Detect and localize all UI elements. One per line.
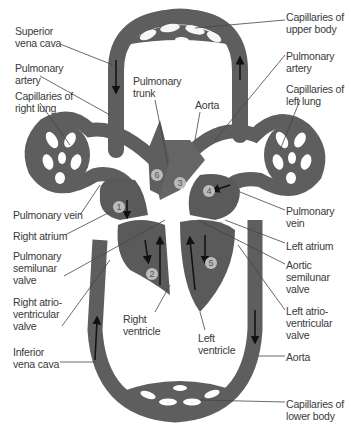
label-right-ventricle: Right ventricle: [123, 313, 160, 337]
label-aorta-lower: Aorta: [286, 351, 310, 363]
label-right-atrium: Right atrium: [13, 230, 67, 242]
svg-text:1: 1: [116, 202, 121, 212]
label-pulmonary-vein-right: Pulmonary vein: [13, 209, 83, 221]
label-right-av-valve: Right atrio- ventricular valve: [13, 296, 62, 332]
svg-text:5: 5: [208, 258, 213, 268]
label-pulmonary-trunk: Pulmonary trunk: [133, 75, 181, 99]
label-inferior-vena-cava: Inferior vena cava: [13, 346, 59, 370]
right-lung-capillaries: [32, 119, 160, 195]
label-left-ventricle: Left ventricle: [198, 332, 235, 356]
label-capillaries-lower-body: Capillaries of lower body: [286, 398, 344, 422]
svg-text:6: 6: [154, 170, 159, 180]
label-left-atrium: Left atrium: [286, 240, 333, 252]
label-pulmonary-vein-left: Pulmonary vein: [286, 205, 334, 229]
label-pulmonary-artery-right: Pulmonary artery: [15, 62, 63, 86]
svg-text:2: 2: [149, 269, 154, 279]
label-aortic-semilunar-valve: Aortic semilunar valve: [286, 259, 330, 295]
label-pulmonary-semilunar-valve: Pulmonary semilunar valve: [13, 250, 61, 286]
svg-text:3: 3: [177, 178, 182, 188]
label-superior-vena-cava: Superior vena cava: [15, 25, 61, 49]
label-capillaries-left-lung: Capillaries of left lung: [286, 83, 344, 107]
label-capillaries-upper-body: Capillaries of upper body: [286, 11, 344, 35]
label-capillaries-right-lung: Capillaries of right lung: [15, 90, 73, 114]
label-aorta-upper: Aorta: [195, 99, 219, 111]
label-left-av-valve: Left atrio- ventricular valve: [286, 305, 332, 341]
label-pulmonary-artery-left: Pulmonary artery: [286, 50, 334, 74]
svg-text:4: 4: [206, 186, 211, 196]
